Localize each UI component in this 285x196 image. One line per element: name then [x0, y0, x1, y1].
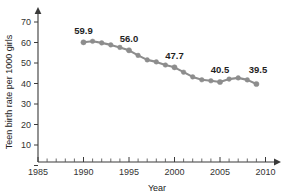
y-tick-label-20: 20	[21, 120, 31, 130]
data-point	[109, 43, 114, 48]
data-point	[136, 53, 141, 58]
axes-group	[35, 7, 281, 165]
data-point	[145, 58, 150, 63]
y-tick-label-70: 70	[21, 17, 31, 27]
x-tick-label-1990: 1990	[73, 167, 93, 177]
data-point	[90, 39, 95, 44]
x-tick-label-2005: 2005	[210, 167, 230, 177]
y-axis-title: Teen birth rate per 1000 girls	[4, 34, 14, 149]
y-axis-arrow-icon	[35, 7, 42, 14]
data-point	[245, 78, 250, 83]
x-axis-arrow-icon	[274, 159, 281, 166]
data-point	[154, 60, 159, 65]
data-point	[81, 40, 86, 45]
data-label-1990: 59.9	[74, 25, 93, 36]
teen-birth-rate-chart: 10 20 30 40 50 60 70	[0, 0, 285, 196]
data-point	[181, 70, 186, 75]
data-label-2009: 39.5	[249, 64, 268, 75]
data-label-2000: 47.7	[165, 50, 184, 61]
x-tick-label-2000: 2000	[164, 167, 184, 177]
data-point	[209, 79, 214, 84]
data-label-1995: 56.0	[120, 33, 139, 44]
data-point	[126, 48, 131, 53]
x-tick-label-2010: 2010	[255, 167, 275, 177]
data-point	[200, 78, 205, 83]
y-tick-label-30: 30	[21, 99, 31, 109]
chart-canvas: 10 20 30 40 50 60 70	[0, 0, 285, 196]
y-tick-label-40: 40	[21, 79, 31, 89]
data-label-2005: 40.5	[211, 64, 230, 75]
y-tick-label-10: 10	[21, 140, 31, 150]
data-point	[190, 75, 195, 80]
y-tick-label-50: 50	[21, 58, 31, 68]
x-tick-label-1985: 1985	[28, 167, 48, 177]
y-tick-marks	[34, 22, 38, 166]
data-point	[227, 77, 232, 82]
data-point	[236, 76, 241, 81]
data-point	[217, 79, 222, 84]
data-point	[172, 65, 177, 70]
y-tick-label-60: 60	[21, 38, 31, 48]
x-tick-label-1995: 1995	[119, 167, 139, 177]
data-point	[118, 45, 123, 50]
data-point	[254, 81, 259, 86]
data-point	[99, 41, 104, 46]
data-point	[163, 63, 168, 68]
x-axis-title: Year	[148, 183, 166, 193]
x-major-tick-marks	[38, 157, 266, 162]
